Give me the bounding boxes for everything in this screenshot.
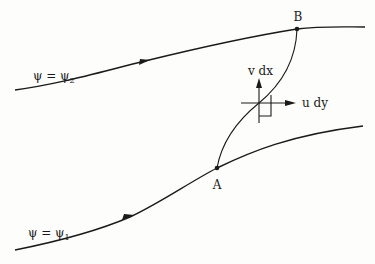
arrow-upper-icon (139, 59, 150, 65)
streamline-upper-label: ψ = ψ2 (33, 69, 75, 85)
streamline-lower (15, 126, 363, 250)
streamline-lower-label: ψ = ψ1 (28, 226, 70, 242)
point-a (215, 166, 220, 171)
point-a-label: A (212, 178, 222, 192)
vector-vertical-arrowhead-icon (256, 78, 262, 88)
vector-vertical-label: v dx (247, 64, 273, 78)
streamline-diagram: B A v dx u dy ψ = ψ2 ψ = ψ1 (0, 0, 375, 264)
vector-horizontal-arrowhead-icon (285, 100, 296, 106)
point-b (295, 27, 300, 32)
arrow-lower-icon (122, 214, 134, 220)
vector-horizontal-label: u dy (302, 96, 328, 110)
point-b-label: B (294, 10, 303, 24)
curve-a-to-b (217, 29, 297, 168)
